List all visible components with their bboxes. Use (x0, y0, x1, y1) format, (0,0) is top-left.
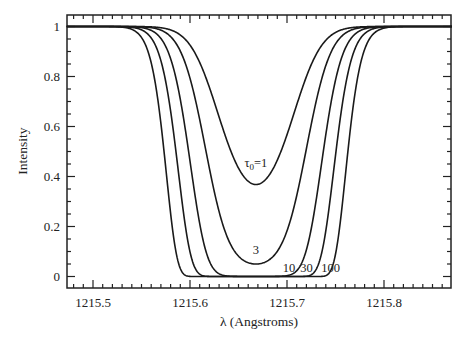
y-tick-label: 0.8 (44, 69, 60, 84)
y-tick-label: 1 (54, 19, 61, 34)
y-tick-label: 0.6 (44, 119, 61, 134)
curve-tau-100 (67, 27, 452, 277)
y-tick-label: 0 (54, 269, 61, 284)
curve-label: τ0=1 (245, 156, 268, 172)
x-tick-label: 1215.7 (269, 295, 305, 310)
curve-tau-3 (67, 27, 452, 265)
y-tick-label: 0.4 (44, 169, 61, 184)
x-tick-label: 1215.8 (366, 295, 402, 310)
x-axis-title: λ (Angstroms) (220, 314, 298, 329)
line-chart: 1215.51215.61215.71215.8 00.20.40.60.81 … (0, 0, 470, 339)
curve-tau-10 (67, 27, 452, 277)
y-tick-label: 0.2 (44, 219, 60, 234)
curve-label: 10 (283, 261, 296, 275)
curve-tau-30 (67, 27, 452, 277)
y-tick-labels: 00.20.40.60.81 (44, 19, 61, 284)
x-tick-labels: 1215.51215.61215.71215.8 (75, 295, 402, 310)
intensity-curves (67, 27, 452, 277)
curve-label: 30 (300, 261, 313, 275)
x-tick-label: 1215.6 (172, 295, 208, 310)
y-axis-title: Intensity (15, 127, 30, 174)
x-tick-label: 1215.5 (75, 295, 111, 310)
curve-label: 3 (253, 243, 259, 257)
curve-label: 100 (321, 261, 340, 275)
